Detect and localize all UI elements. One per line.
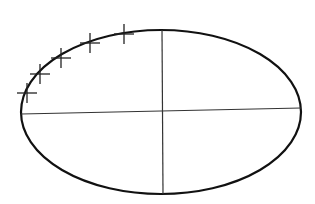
cross-tick-mark: [114, 24, 134, 44]
cross-tick-mark: [80, 33, 100, 53]
ellipse-diagram: [0, 0, 315, 204]
cross-tick-mark: [30, 64, 50, 84]
cross-tick-mark: [17, 83, 37, 103]
horizontal-axis-line: [21, 108, 301, 114]
vertical-axis-line: [162, 30, 163, 194]
tick-marks-group: [17, 24, 134, 103]
diagram-svg: [0, 0, 315, 204]
ellipse-outline: [21, 30, 301, 194]
